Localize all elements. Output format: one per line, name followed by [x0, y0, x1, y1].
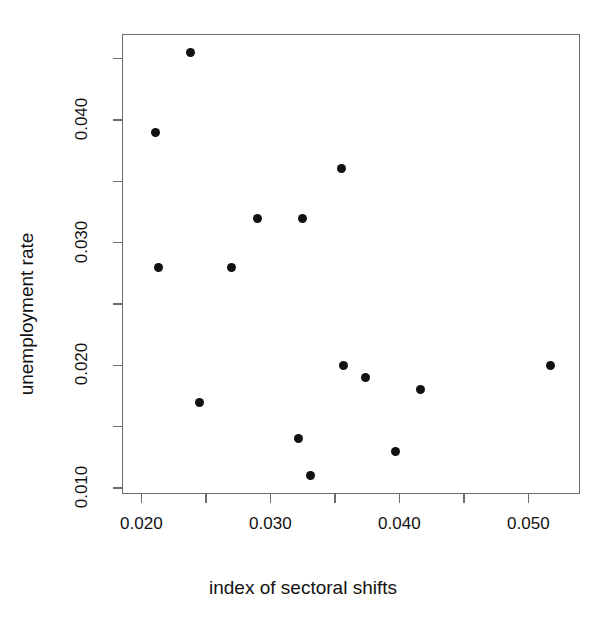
y-axis-minor-tick — [113, 181, 122, 182]
y-axis-minor-tick — [113, 426, 122, 427]
y-axis-tick — [113, 242, 122, 243]
y-axis-tick-label: 0.010 — [60, 477, 104, 497]
data-point — [391, 447, 400, 456]
x-axis-tick — [399, 494, 400, 503]
x-axis-tick-label: 0.050 — [507, 514, 550, 534]
data-point — [337, 164, 346, 173]
y-axis-minor-tick — [113, 58, 122, 59]
y-axis-title-text: unemployment rate — [16, 232, 38, 395]
y-axis-tick — [113, 487, 122, 488]
data-point — [253, 214, 262, 223]
x-axis-tick-label: 0.040 — [378, 514, 421, 534]
data-point — [195, 398, 204, 407]
y-axis-tick — [113, 365, 122, 366]
y-axis-tick-label: 0.040 — [60, 109, 104, 129]
data-points-layer: 0.0200.0300.0400.0500.0100.0200.0300.040 — [0, 0, 606, 627]
y-axis-title: unemployment rate — [14, 0, 40, 627]
y-axis-tick-label-text: 0.020 — [72, 342, 92, 386]
x-axis-minor-tick — [463, 494, 464, 503]
x-axis-tick-label: 0.030 — [249, 514, 292, 534]
data-point — [416, 385, 425, 394]
y-axis-tick-label-text: 0.010 — [72, 465, 92, 509]
x-axis-title: index of sectoral shifts — [0, 577, 606, 599]
x-axis-tick — [270, 494, 271, 503]
scatter-plot-figure: 0.0200.0300.0400.0500.0100.0200.0300.040… — [0, 0, 606, 627]
data-point — [294, 434, 303, 443]
data-point — [339, 361, 348, 370]
data-point — [154, 263, 163, 272]
x-axis-minor-tick — [334, 494, 335, 503]
data-point — [227, 263, 236, 272]
x-axis-tick — [141, 494, 142, 503]
data-point — [306, 471, 315, 480]
y-axis-tick-label-text: 0.040 — [72, 97, 92, 141]
data-point — [546, 361, 555, 370]
y-axis-tick-label: 0.030 — [60, 232, 104, 252]
data-point — [186, 48, 195, 57]
data-point — [298, 214, 307, 223]
x-axis-tick-label: 0.020 — [120, 514, 163, 534]
y-axis-tick-label-text: 0.030 — [72, 220, 92, 264]
data-point — [151, 128, 160, 137]
x-axis-tick — [528, 494, 529, 503]
y-axis-tick-label: 0.020 — [60, 354, 104, 374]
y-axis-tick — [113, 119, 122, 120]
x-axis-minor-tick — [205, 494, 206, 503]
data-point — [361, 373, 370, 382]
y-axis-minor-tick — [113, 303, 122, 304]
